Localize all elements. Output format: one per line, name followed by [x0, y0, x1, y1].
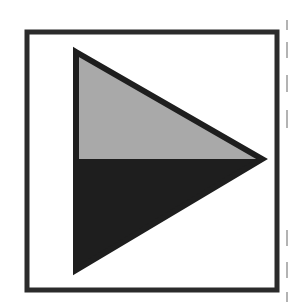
figure-canvas [0, 0, 290, 305]
figure-svg [0, 0, 290, 305]
